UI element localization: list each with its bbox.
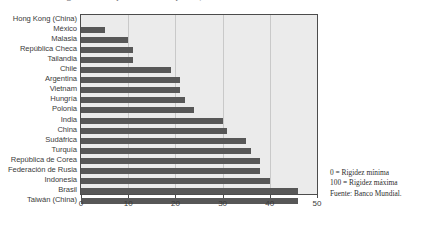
bar-row: [81, 176, 317, 186]
category-label: República Checa: [20, 44, 77, 54]
tick-label-10: 10: [124, 199, 133, 208]
bar: [81, 188, 298, 194]
bar: [81, 87, 180, 93]
category-label: Tailandia: [47, 54, 77, 64]
bar: [81, 57, 133, 63]
tick-mark-40: [270, 195, 271, 198]
plot-area: [80, 14, 318, 195]
tick-mark-0: [81, 195, 82, 198]
tick-label-0: 0: [79, 199, 83, 208]
value-axis: 01020304050: [80, 195, 318, 217]
category-label: China: [57, 125, 77, 135]
bar-row: [81, 55, 317, 65]
tick-mark-50: [317, 195, 318, 198]
bar-row: [81, 166, 317, 176]
category-label: Malasia: [51, 34, 77, 44]
category-label: Turquía: [51, 145, 77, 155]
bar: [81, 148, 251, 154]
category-label: México: [53, 24, 77, 34]
tick-label-40: 40: [265, 199, 274, 208]
tick-mark-30: [223, 195, 224, 198]
category-label: Brasil: [58, 185, 77, 195]
category-label: Hong Kong (China): [13, 14, 77, 24]
note-max-label: 100 = Rigidez máxima: [330, 178, 426, 188]
note-source: Fuente: Banco Mundial.: [330, 189, 426, 199]
tick-label-50: 50: [313, 199, 322, 208]
bar: [81, 138, 246, 144]
bar-row: [81, 85, 317, 95]
category-label: Taiwán (China): [27, 195, 77, 205]
bar: [81, 158, 260, 164]
category-label: India: [61, 115, 77, 125]
bar-row: [81, 105, 317, 115]
bar-row: [81, 146, 317, 156]
category-label: República de Corea: [11, 155, 77, 165]
bar-row: [81, 136, 317, 146]
category-label: Argentina: [45, 74, 77, 84]
bar-series: [81, 15, 317, 194]
bar-row: [81, 65, 317, 75]
category-label: Hungría: [50, 94, 77, 104]
bar-row: [81, 25, 317, 35]
category-label: Vietnam: [50, 84, 77, 94]
category-label: Chile: [60, 64, 77, 74]
bar: [81, 67, 171, 73]
tick-mark-10: [128, 195, 129, 198]
category-label: Sudáfrica: [45, 135, 77, 145]
bar-row: [81, 116, 317, 126]
bar-row: [81, 45, 317, 55]
bar: [81, 168, 260, 174]
note-min-label: 0 = Rigidez mínima: [330, 168, 426, 178]
bar: [81, 107, 194, 113]
bar-row: [81, 15, 317, 25]
bar: [81, 97, 185, 103]
bar: [81, 77, 180, 83]
bar-row: [81, 75, 317, 85]
bar: [81, 118, 223, 124]
chart-note: 0 = Rigidez mínima 100 = Rigidez máxima …: [330, 168, 426, 199]
category-label: Polonia: [52, 104, 77, 114]
category-label: Federación de Rusia: [8, 165, 77, 175]
bar: [81, 178, 270, 184]
bar-row: [81, 156, 317, 166]
bar: [81, 27, 105, 33]
bar: [81, 47, 133, 53]
tick-label-20: 20: [171, 199, 180, 208]
category-label: Indonesia: [45, 175, 77, 185]
bar-row: [81, 95, 317, 105]
bar-row: [81, 126, 317, 136]
tick-label-30: 30: [218, 199, 227, 208]
tick-mark-20: [175, 195, 176, 198]
bar: [81, 128, 227, 134]
bar: [81, 37, 128, 43]
bar-row: [81, 35, 317, 45]
